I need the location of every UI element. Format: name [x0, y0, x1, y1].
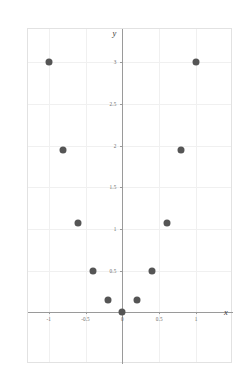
gridline-horizontal [28, 146, 231, 147]
data-point [89, 267, 96, 274]
data-point [148, 267, 155, 274]
x-axis-line [28, 312, 233, 313]
gridline-horizontal [28, 62, 231, 63]
x-tick-label: -0.5 [81, 316, 90, 322]
y-tick-label: 3 [114, 59, 117, 65]
data-point [119, 309, 126, 316]
y-axis-title: y [112, 28, 116, 38]
y-tick-mark [120, 146, 122, 147]
gridline-horizontal [28, 229, 231, 230]
y-tick-label: 2.5 [110, 101, 117, 107]
y-tick-label: 1.5 [110, 184, 117, 190]
data-point [178, 146, 185, 153]
data-point [60, 146, 67, 153]
y-tick-mark [120, 104, 122, 105]
x-tick-mark [159, 312, 160, 314]
x-tick-label: 1 [195, 316, 198, 322]
data-point [104, 296, 111, 303]
x-tick-label: -1 [46, 316, 51, 322]
data-point [193, 59, 200, 66]
gridline-horizontal [28, 187, 231, 188]
x-tick-mark [49, 312, 50, 314]
x-tick-label: 0 [121, 316, 124, 322]
y-tick-mark [120, 62, 122, 63]
data-point [134, 296, 141, 303]
x-axis-title: x [224, 307, 228, 317]
gridline-horizontal [28, 271, 231, 272]
x-tick-mark [196, 312, 197, 314]
y-tick-mark [120, 187, 122, 188]
y-tick-label: 2 [114, 143, 117, 149]
data-point [45, 59, 52, 66]
data-point [75, 220, 82, 227]
x-tick-label: 0.5 [156, 316, 163, 322]
x-tick-mark [86, 312, 87, 314]
gridline-horizontal [28, 104, 231, 105]
scatter-plot-figure: -1-0.500.510.511.522.53 x y [0, 0, 252, 383]
y-tick-label: 0.5 [110, 268, 117, 274]
y-tick-mark [120, 271, 122, 272]
plot-frame: -1-0.500.510.511.522.53 x y [27, 28, 232, 363]
data-point [163, 220, 170, 227]
y-tick-label: 1 [114, 226, 117, 232]
y-tick-mark [120, 229, 122, 230]
